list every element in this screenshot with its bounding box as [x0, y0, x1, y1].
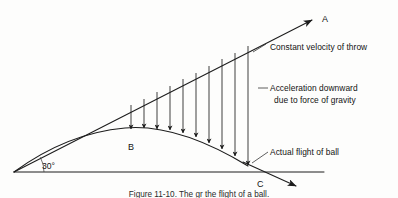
leader-line-constant-velocity [253, 44, 266, 52]
constant-velocity-ray [14, 20, 312, 172]
figure-caption: Figure 11-10. The gr the flight of a bal… [129, 190, 269, 198]
leader-line-actual-flight [252, 152, 268, 163]
gravity-drop-arrows [131, 46, 248, 165]
point-label-c: C [257, 179, 264, 189]
projectile-motion-diagram: Constant velocity of throw Acceleration … [0, 0, 398, 198]
annotation-constant-velocity: Constant velocity of throw [270, 42, 368, 52]
figure-container: Constant velocity of throw Acceleration … [0, 0, 398, 198]
annotation-acceleration-line2: due to force of gravity [274, 95, 356, 105]
point-label-b: B [128, 142, 134, 152]
point-label-a: A [322, 14, 328, 24]
angle-label: 30° [42, 161, 55, 171]
annotation-actual-flight: Actual flight of ball [270, 147, 339, 157]
annotation-acceleration-line1: Acceleration downward [270, 83, 358, 93]
flight-continuation-arrow [243, 162, 296, 186]
